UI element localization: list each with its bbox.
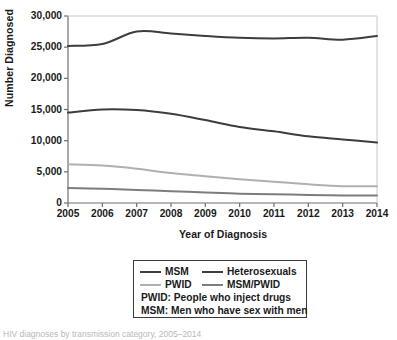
legend-note-line: PWID: People who inject drugs xyxy=(141,291,300,304)
y-tick-label: 15,000 xyxy=(6,105,62,115)
series-line-heterosexuals xyxy=(68,109,377,142)
legend-item-label: Heterosexuals xyxy=(227,266,297,278)
footer-caption: HIV diagnoses by transmission category, … xyxy=(3,330,393,339)
legend-line-swatch-icon xyxy=(140,271,161,273)
series-line-msm xyxy=(68,31,377,46)
legend-item-pwid[interactable]: PWID xyxy=(140,278,195,291)
legend-notes: PWID: People who inject drugsMSM: Men wh… xyxy=(140,291,300,317)
y-tick-label: 25,000 xyxy=(6,42,62,52)
legend-item-label: PWID xyxy=(165,279,192,291)
series-line-msm-pwid xyxy=(68,188,377,196)
legend-note-line: MSM: Men who have sex with men xyxy=(141,304,300,317)
legend-item-label: MSM/PWID xyxy=(227,279,280,291)
legend-line-swatch-icon xyxy=(140,284,161,286)
y-tick-label: 30,000 xyxy=(6,11,62,21)
y-tick-label: 20,000 xyxy=(6,73,62,83)
y-tick-label: 5,000 xyxy=(6,167,62,177)
chart-legend: MSMHeterosexualsPWIDMSM/PWID PWID: Peopl… xyxy=(133,260,307,318)
y-tick-label: 0 xyxy=(6,198,62,208)
legend-line-swatch-icon xyxy=(202,271,223,273)
legend-line-swatch-icon xyxy=(202,284,223,286)
chart-series-layer xyxy=(68,31,377,196)
x-tick-label: 2014 xyxy=(357,208,397,219)
legend-item-msm[interactable]: MSM xyxy=(140,265,195,278)
legend-item-heterosexuals[interactable]: Heterosexuals xyxy=(202,265,300,278)
x-axis-title: Year of Diagnosis xyxy=(68,228,378,240)
legend-entries: MSMHeterosexualsPWIDMSM/PWID xyxy=(140,265,300,291)
legend-item-label: MSM xyxy=(165,266,189,278)
y-tick-label: 10,000 xyxy=(6,136,62,146)
figure-root: Number Diagnosed Year of Diagnosis 05,00… xyxy=(0,0,397,340)
legend-item-msm-pwid[interactable]: MSM/PWID xyxy=(202,278,300,291)
line-chart: Number Diagnosed Year of Diagnosis 05,00… xyxy=(0,0,397,250)
series-line-pwid xyxy=(68,164,377,186)
